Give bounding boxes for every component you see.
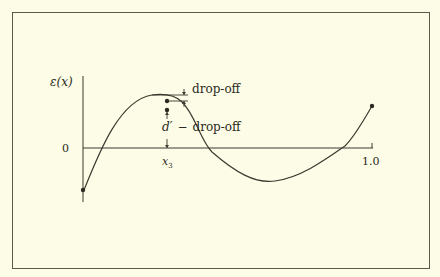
- y-axis-label: ε(x): [50, 75, 73, 89]
- figure-frame: [13, 13, 430, 269]
- dropoff-label: drop-off: [192, 82, 242, 96]
- start-point: [81, 188, 85, 192]
- curve-point-x3: [165, 99, 169, 103]
- x-end-label: 1.0: [362, 155, 380, 168]
- dprime-dropoff-label: d′−drop-off: [162, 120, 242, 134]
- error-curve: [84, 94, 372, 190]
- error-curve-diagram: ε(x) 0 1.0 x3 drop-off d′−drop-off: [0, 0, 440, 277]
- origin-label: 0: [62, 142, 69, 155]
- dropped-point-x3: [165, 108, 169, 112]
- end-point: [370, 104, 374, 108]
- x3-label: x3: [162, 155, 173, 170]
- dprime-arrowhead-up: [165, 112, 169, 115]
